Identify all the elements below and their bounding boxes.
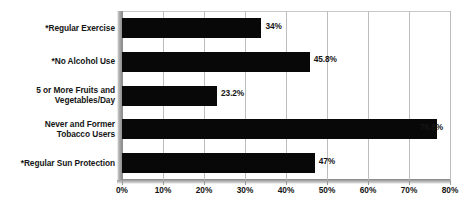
category-label: 5 or More Fruits andVegetables/Day	[0, 79, 118, 113]
bar-value-label: 47%	[319, 156, 335, 166]
bar-row: 34%	[122, 11, 450, 45]
x-tick-label: 10%	[155, 185, 172, 195]
x-tick-label: 0%	[116, 185, 128, 195]
x-axis-tick-labels: 0%10%20%30%40%50%60%70%80%	[122, 185, 450, 199]
x-tick-mark	[327, 181, 328, 185]
gridline-80	[450, 11, 451, 180]
category-label-line: *Regular Sun Protection	[21, 158, 115, 169]
category-label-line: 5 or More Fruits and	[36, 85, 115, 96]
x-tick-label: 50%	[319, 185, 336, 195]
category-label-line: Tobacco Users	[57, 129, 115, 140]
bar-value-label: 76.8%	[420, 122, 443, 132]
bar[interactable]	[122, 18, 261, 38]
x-tick-mark	[368, 181, 369, 185]
x-tick-label: 30%	[237, 185, 254, 195]
x-tick-mark	[163, 181, 164, 185]
category-label: *Regular Sun Protection	[0, 146, 118, 180]
bar[interactable]	[122, 52, 310, 72]
x-tick-label: 80%	[442, 185, 459, 195]
x-tick-label: 20%	[196, 185, 213, 195]
category-label-line: Vegetables/Day	[55, 95, 115, 106]
x-tick-label: 40%	[278, 185, 295, 195]
x-tick-mark	[204, 181, 205, 185]
bar-value-label: 45.8%	[314, 54, 337, 64]
category-label-line: *No Alcohol Use	[52, 56, 115, 67]
bar[interactable]	[122, 153, 315, 173]
x-tick-mark	[450, 181, 451, 185]
bar-row: 76.8%	[122, 112, 450, 146]
category-label-line: Never and Former	[45, 119, 115, 130]
bar-row: 47%	[122, 146, 450, 180]
bar-value-label: 23.2%	[221, 88, 244, 98]
x-tick-mark	[409, 181, 410, 185]
bar-row: 23.2%	[122, 79, 450, 113]
plot-area: 34%45.8%23.2%76.8%47%	[122, 11, 450, 180]
x-tick-mark	[286, 181, 287, 185]
x-axis-shadow	[117, 180, 451, 184]
bar[interactable]	[122, 86, 217, 106]
x-tick-mark	[122, 181, 123, 185]
x-tick-mark	[245, 181, 246, 185]
x-tick-label: 60%	[360, 185, 377, 195]
category-label: *Regular Exercise	[0, 11, 118, 45]
category-axis-labels: *Regular Exercise*No Alcohol Use5 or Mor…	[0, 11, 118, 180]
category-label: Never and FormerTobacco Users	[0, 112, 118, 146]
bar-row: 45.8%	[122, 45, 450, 79]
category-label-line: *Regular Exercise	[45, 23, 115, 34]
bar[interactable]	[122, 119, 437, 139]
x-tick-label: 70%	[401, 185, 418, 195]
bar-value-label: 34%	[265, 21, 281, 31]
category-label: *No Alcohol Use	[0, 45, 118, 79]
horizontal-bar-chart: *Regular Exercise*No Alcohol Use5 or Mor…	[0, 0, 469, 209]
